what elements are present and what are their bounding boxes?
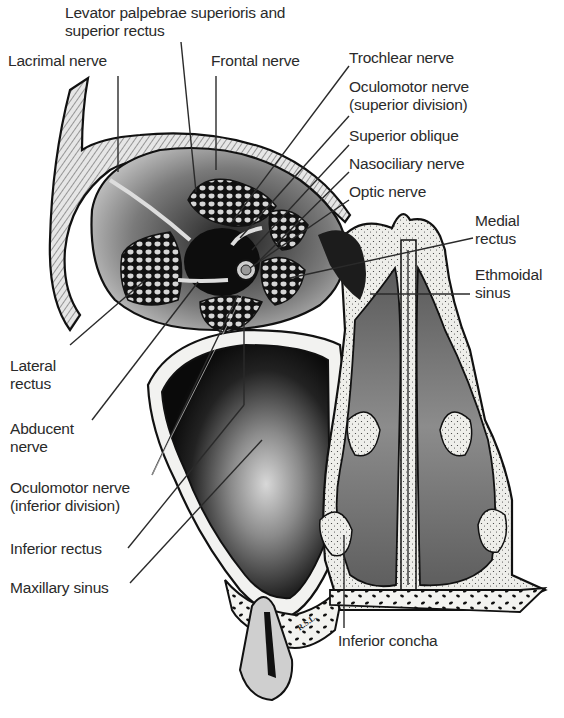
label-levator-superior-rectus: Levator palpebrae superioris and superio… [65, 4, 285, 40]
label-line: Inferior rectus [10, 540, 102, 558]
label-line: superior rectus [65, 22, 285, 40]
label-oculomotor-superior: Oculomotor nerve (superior division) [349, 78, 469, 114]
abducent-nerve-strand [178, 280, 228, 281]
label-ethmoidal-sinus: Ethmoidal sinus [475, 266, 542, 302]
label-lacrimal-nerve: Lacrimal nerve [8, 52, 107, 70]
label-line: Frontal nerve [211, 52, 300, 70]
label-line: Medial [475, 212, 519, 230]
label-optic-nerve: Optic nerve [349, 183, 426, 201]
label-nasociliary-nerve: Nasociliary nerve [349, 155, 464, 173]
label-line: Trochlear nerve [349, 49, 454, 67]
label-line: nerve [10, 438, 74, 456]
orbit-nasal-illustration [0, 0, 564, 718]
label-medial-rectus: Medial rectus [475, 212, 519, 248]
label-line: rectus [475, 230, 519, 248]
label-line: rectus [10, 375, 56, 393]
label-line: Abducent [10, 420, 74, 438]
label-line: Lateral [10, 357, 56, 375]
label-line: Maxillary sinus [10, 579, 109, 597]
label-line: (inferior division) [10, 497, 130, 515]
label-line: sinus [475, 284, 542, 302]
label-line: Superior oblique [349, 127, 459, 145]
label-line: Oculomotor nerve [10, 479, 130, 497]
label-line: Nasociliary nerve [349, 155, 464, 173]
label-oculomotor-inferior: Oculomotor nerve (inferior division) [10, 479, 130, 515]
label-line: Optic nerve [349, 183, 426, 201]
label-lateral-rectus: Lateral rectus [10, 357, 56, 393]
label-superior-oblique: Superior oblique [349, 127, 459, 145]
label-line: Levator palpebrae superioris and [65, 4, 285, 22]
label-trochlear-nerve: Trochlear nerve [349, 49, 454, 67]
label-maxillary-sinus: Maxillary sinus [10, 579, 109, 597]
label-line: (superior division) [349, 96, 469, 114]
label-frontal-nerve: Frontal nerve [211, 52, 300, 70]
label-abducent-nerve: Abducent nerve [10, 420, 74, 456]
anatomy-figure: Levator palpebrae superioris and superio… [0, 0, 564, 718]
label-line: Inferior concha [338, 632, 438, 650]
label-line: Lacrimal nerve [8, 52, 107, 70]
label-line: Ethmoidal [475, 266, 542, 284]
maxillary-sinus [148, 330, 345, 616]
label-inferior-concha: Inferior concha [338, 632, 438, 650]
label-line: Oculomotor nerve [349, 78, 469, 96]
label-inferior-rectus: Inferior rectus [10, 540, 102, 558]
